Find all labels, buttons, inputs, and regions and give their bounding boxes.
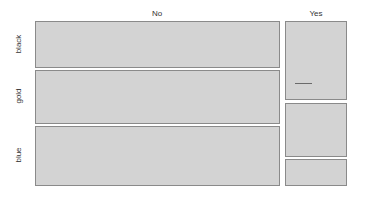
- cell-yes-black: [285, 21, 347, 100]
- zero-marker-line: [295, 83, 312, 84]
- row-label-black: black: [14, 35, 23, 54]
- mosaic-plot: No Yes black gold blue: [0, 0, 366, 199]
- cell-no-blue: [35, 126, 280, 186]
- row-label-blue: blue: [14, 147, 23, 162]
- cell-no-black: [35, 21, 280, 68]
- column-label-no: No: [152, 9, 162, 18]
- cell-yes-gold: [285, 103, 347, 157]
- cell-no-gold: [35, 70, 280, 124]
- cell-yes-blue: [285, 159, 347, 186]
- column-label-yes: Yes: [309, 9, 322, 18]
- row-label-gold: gold: [14, 88, 23, 103]
